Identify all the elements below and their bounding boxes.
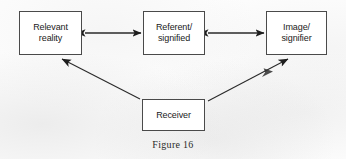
node-referent-signified[interactable]: Referent/ signified [143,11,205,55]
node-image-signifier[interactable]: Image/ signifier [266,11,327,55]
node-relevant-reality-label: Relevant reality [33,22,68,44]
figure-page: Relevant reality Referent/ signified Ima… [0,0,346,159]
figure-caption: Figure 16 [0,139,346,150]
node-receiver-label: Receiver [156,110,191,121]
node-referent-signified-label: Referent/ signified [156,22,192,44]
node-image-signifier-label: Image/ signifier [281,22,311,44]
connector-receiver-to-image [208,59,288,101]
connector-receiver-to-relevant-reality [62,59,140,99]
node-receiver[interactable]: Receiver [142,99,205,131]
node-relevant-reality[interactable]: Relevant reality [19,11,82,55]
